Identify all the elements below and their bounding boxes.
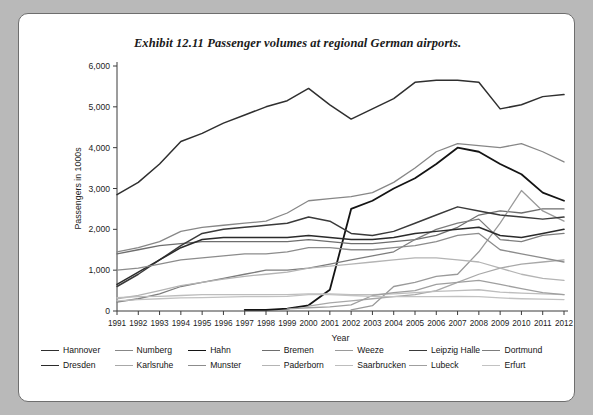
- legend-label: Dortmund: [504, 345, 542, 355]
- series-line: [351, 191, 564, 310]
- legend-item[interactable]: Hannover: [41, 345, 115, 355]
- x-tick-label: 1992: [129, 319, 148, 328]
- series-line: [117, 80, 564, 194]
- x-tick-label: 1993: [150, 319, 169, 328]
- legend-label: Saarbrucken: [357, 360, 406, 370]
- legend-swatch-icon: [409, 350, 427, 351]
- legend-item[interactable]: Munster: [188, 360, 262, 370]
- legend-swatch-icon: [41, 350, 59, 351]
- legend-swatch-icon: [482, 365, 500, 366]
- y-tick-label: 4,000: [88, 143, 110, 153]
- legend-label: Dresden: [63, 360, 95, 370]
- legend-item[interactable]: Hahn: [188, 345, 262, 355]
- y-axis-title: Passengers in 1000s: [73, 147, 83, 230]
- x-tick-label: 1996: [214, 319, 233, 328]
- legend-item[interactable]: Erfurt: [482, 360, 556, 370]
- y-tick-label: 0: [105, 306, 110, 316]
- legend-swatch-icon: [335, 350, 353, 351]
- x-tick-label: 1997: [236, 319, 255, 328]
- series-line: [245, 148, 564, 310]
- x-tick-label: 2002: [342, 319, 361, 328]
- legend-swatch-icon: [262, 365, 280, 366]
- legend-swatch-icon: [482, 350, 500, 351]
- legend-swatch-icon: [41, 365, 59, 366]
- legend-item[interactable]: Bremen: [262, 345, 336, 355]
- legend-label: Munster: [210, 360, 241, 370]
- x-tick-label: 2010: [512, 319, 531, 328]
- x-tick-label: 2008: [470, 319, 489, 328]
- x-tick-label: 2006: [427, 319, 446, 328]
- legend-item[interactable]: Saarbrucken: [335, 360, 409, 370]
- x-tick-label: 2000: [299, 319, 318, 328]
- x-tick-label: 2005: [406, 319, 425, 328]
- legend-label: Hahn: [210, 345, 231, 355]
- legend-label: Bremen: [284, 345, 314, 355]
- x-tick-label: 1991: [108, 319, 127, 328]
- legend-row-1: HannoverNumbergHahnBremenWeezeLeipzig Ha…: [41, 345, 556, 355]
- legend-item[interactable]: Numberg: [115, 345, 189, 355]
- x-tick-label: 2003: [363, 319, 382, 328]
- x-tick-label: 2011: [534, 319, 552, 328]
- legend-item[interactable]: Lubeck: [409, 360, 483, 370]
- x-tick-label: 1998: [257, 319, 276, 328]
- y-tick-label: 5,000: [88, 102, 110, 112]
- legend-item[interactable]: Paderborn: [262, 360, 336, 370]
- series-line: [117, 290, 564, 298]
- legend-label: Leipzig Halle: [431, 345, 480, 355]
- line-chart: 01,0002,0003,0004,0005,0006,000 19911992…: [19, 14, 576, 344]
- legend-swatch-icon: [409, 365, 427, 366]
- legend-swatch-icon: [262, 350, 280, 351]
- legend-label: Karlsruhe: [137, 360, 174, 370]
- series-line: [117, 219, 564, 302]
- y-tick-label: 2,000: [88, 224, 110, 234]
- x-tick-label: 2007: [448, 319, 467, 328]
- x-axis-ticks: 1991199219931994199519961997199819992000…: [108, 311, 574, 328]
- legend-label: Hannover: [63, 345, 100, 355]
- y-tick-label: 6,000: [88, 61, 110, 71]
- x-tick-label: 2009: [491, 319, 510, 328]
- series-line: [117, 144, 564, 252]
- legend-item[interactable]: Weeze: [335, 345, 409, 355]
- legend-label: Weeze: [357, 345, 384, 355]
- legend-item[interactable]: Dresden: [41, 360, 115, 370]
- x-tick-label: 2004: [385, 319, 404, 328]
- legend-row-2: DresdenKarlsruheMunsterPaderbornSaarbruc…: [41, 360, 556, 370]
- legend-label: Erfurt: [504, 360, 525, 370]
- series-lines: [117, 80, 564, 309]
- x-tick-label: 2012: [555, 319, 574, 328]
- y-tick-label: 1,000: [88, 265, 110, 275]
- legend-swatch-icon: [115, 365, 133, 366]
- legend-label: Paderborn: [284, 360, 324, 370]
- y-tick-label: 3,000: [88, 184, 110, 194]
- legend-swatch-icon: [115, 350, 133, 351]
- x-tick-label: 1995: [193, 319, 212, 328]
- x-tick-label: 1999: [278, 319, 297, 328]
- y-axis-ticks: 01,0002,0003,0004,0005,0006,000: [88, 61, 117, 316]
- legend-item[interactable]: Leipzig Halle: [409, 345, 483, 355]
- legend-item[interactable]: Dortmund: [482, 345, 556, 355]
- legend-swatch-icon: [188, 365, 206, 366]
- legend-item[interactable]: Karlsruhe: [115, 360, 189, 370]
- legend-swatch-icon: [188, 350, 206, 351]
- chart-legend: HannoverNumbergHahnBremenWeezeLeipzig Ha…: [41, 345, 556, 375]
- series-line: [117, 258, 564, 299]
- legend-label: Lubeck: [431, 360, 459, 370]
- x-axis-title: Year: [332, 333, 350, 343]
- legend-label: Numberg: [137, 345, 172, 355]
- x-tick-label: 2001: [321, 319, 340, 328]
- x-tick-label: 1994: [172, 319, 191, 328]
- legend-swatch-icon: [335, 365, 353, 366]
- figure-panel: Exhibit 12.11 Passenger volumes at regio…: [18, 13, 575, 402]
